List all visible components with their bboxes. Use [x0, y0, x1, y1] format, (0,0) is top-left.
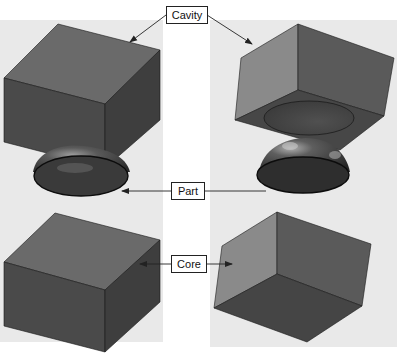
cavity-label: Cavity: [166, 6, 208, 24]
cavity-recess: [264, 101, 354, 135]
core-label: Core: [171, 255, 207, 273]
mold-diagram: [0, 0, 397, 357]
part-label: Part: [171, 182, 205, 200]
